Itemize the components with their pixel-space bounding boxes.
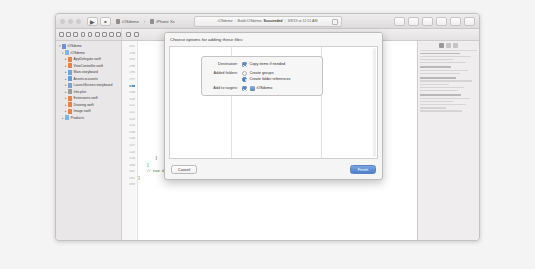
line-number: 141 (122, 102, 137, 109)
scheme-separator-icon: › (144, 18, 146, 24)
status-detail-icon[interactable] (332, 19, 338, 25)
create-folder-references-label: Create folder references (250, 76, 291, 82)
stop-button[interactable]: ■ (100, 17, 111, 26)
add-files-options-group: Destination: Copy items if needed Added … (201, 56, 323, 96)
inspector-section-text-settings (420, 77, 477, 91)
navigator-item-label: Products (71, 115, 84, 122)
file-inspector-icon[interactable] (439, 43, 444, 48)
device-name: iPhone Xs (156, 19, 174, 24)
editor-mode-version-icon[interactable] (422, 17, 433, 26)
status-action: Build iOSdemo (238, 19, 262, 23)
sheet-title: Choose options for adding these files: (165, 33, 382, 46)
close-window-icon[interactable] (60, 19, 65, 24)
line-number: 149 (122, 155, 137, 162)
inspector-section-location (420, 66, 477, 74)
find-navigator-icon[interactable] (81, 32, 86, 37)
line-number: 142 (122, 109, 137, 116)
plist-icon (68, 89, 72, 94)
line-number: 153 (122, 181, 137, 188)
forward-arrow-icon[interactable] (134, 32, 139, 37)
build-status-bar[interactable]: iOSdemo : Build iOSdemo Succeeded | 3/8/… (194, 16, 342, 27)
copy-items-checkbox-icon[interactable] (242, 62, 247, 67)
scheme-icon (116, 19, 120, 24)
project-navigator-list[interactable]: ▾iOSdemo▾iOSdemo▸AppDelegate.swift▸ViewC… (58, 43, 121, 121)
folder-icon (65, 50, 69, 55)
status-timestamp: 3/8/19 at 11:51 AM (287, 19, 317, 23)
line-number-gutter: 1321331341351361371381391401411421431441… (122, 41, 138, 240)
line-number: 139 (122, 89, 137, 96)
add-to-targets-value: iOSdemo (242, 85, 317, 91)
window-titlebar: ▶ ■ iOSdemo › iPhone Xs iOSdemo : Build … (56, 14, 479, 29)
line-number: 135 (122, 63, 137, 70)
project-navigator-icon[interactable] (59, 32, 64, 37)
back-arrow-icon[interactable] (126, 32, 131, 37)
destination-value: Copy items if needed (242, 61, 317, 67)
symbol-navigator-icon[interactable] (73, 32, 78, 37)
report-navigator-icon[interactable] (116, 32, 121, 37)
line-number: 133 (122, 50, 137, 57)
line-number: 136 (122, 69, 137, 76)
navigator-item-products[interactable]: ▸Products (58, 115, 121, 122)
device-icon (150, 19, 154, 24)
proj-icon (62, 44, 66, 49)
zoom-window-icon[interactable] (76, 19, 81, 24)
create-folder-references-radio-row[interactable]: Create folder references (242, 76, 317, 82)
swift-icon (68, 109, 72, 114)
line-number: 144 (122, 122, 137, 129)
file-browser-scrollbar[interactable] (373, 48, 376, 157)
storyboard-icon (68, 70, 72, 75)
editor-mode-standard-icon[interactable] (394, 17, 405, 26)
finish-button[interactable]: Finish (350, 165, 376, 174)
file-browser-column-3[interactable] (322, 47, 377, 158)
test-navigator-icon[interactable] (95, 32, 100, 37)
inspector-tab-bar[interactable] (420, 43, 477, 51)
project-navigator[interactable]: ▾iOSdemo▾iOSdemo▸AppDelegate.swift▸ViewC… (56, 41, 122, 240)
target-checkbox-icon[interactable] (242, 86, 247, 91)
storyboard-icon (68, 83, 72, 88)
toggle-debug-area-icon[interactable] (450, 17, 461, 26)
scheme-name: iOSdemo (122, 19, 139, 24)
scheme-selector[interactable]: iOSdemo (113, 17, 142, 26)
source-control-navigator-icon[interactable] (66, 32, 71, 37)
inspector-section-identity (420, 53, 477, 64)
minimize-window-icon[interactable] (68, 19, 73, 24)
issue-navigator-icon[interactable] (88, 32, 93, 37)
toolbar-left-group: ▶ ■ iOSdemo › iPhone Xs (87, 17, 178, 26)
toggle-navigator-icon[interactable] (436, 17, 447, 26)
line-number: 145 (122, 129, 137, 136)
editor-jump-bar[interactable] (122, 32, 139, 37)
line-number: 152 (122, 175, 137, 182)
cancel-button[interactable]: Cancel (171, 165, 197, 174)
create-folder-references-radio-icon[interactable] (242, 77, 247, 82)
toggle-inspector-icon[interactable] (464, 17, 475, 26)
editor-mode-assistant-icon[interactable] (408, 17, 419, 26)
create-groups-radio-icon[interactable] (242, 71, 247, 76)
breakpoint-navigator-icon[interactable] (109, 32, 114, 37)
line-number: 148 (122, 149, 137, 156)
inspector-section-target-membership (420, 94, 477, 111)
status-divider: | (285, 19, 286, 23)
navigator-filter-bar (56, 29, 122, 40)
quick-help-icon[interactable] (446, 43, 451, 48)
line-number: 132 (122, 43, 137, 50)
line-number: 150 (122, 162, 137, 169)
code-line (138, 181, 417, 188)
traffic-light-buttons[interactable] (60, 19, 81, 24)
option-row-add-to-targets: Add to targets: iOSdemo (206, 85, 317, 91)
identity-inspector-icon[interactable] (453, 43, 458, 48)
sheet-footer: Cancel Finish (165, 159, 382, 179)
status-project: iOSdemo (218, 19, 233, 23)
sheet-content: Destination: Copy items if needed Added … (169, 46, 378, 159)
target-row-iosdemo[interactable]: iOSdemo (242, 85, 317, 91)
utilities-inspector[interactable] (417, 41, 479, 240)
swift-icon (68, 96, 72, 101)
line-number: 143 (122, 116, 137, 123)
line-number: 146 (122, 135, 137, 142)
copy-items-checkbox-row[interactable]: Copy items if needed (242, 61, 317, 67)
target-name-label: iOSdemo (257, 85, 273, 91)
target-app-icon (250, 86, 255, 91)
debug-navigator-icon[interactable] (102, 32, 107, 37)
status-result: Succeeded (264, 19, 283, 23)
run-button[interactable]: ▶ (87, 17, 98, 26)
destination-selector[interactable]: iPhone Xs (147, 17, 177, 26)
